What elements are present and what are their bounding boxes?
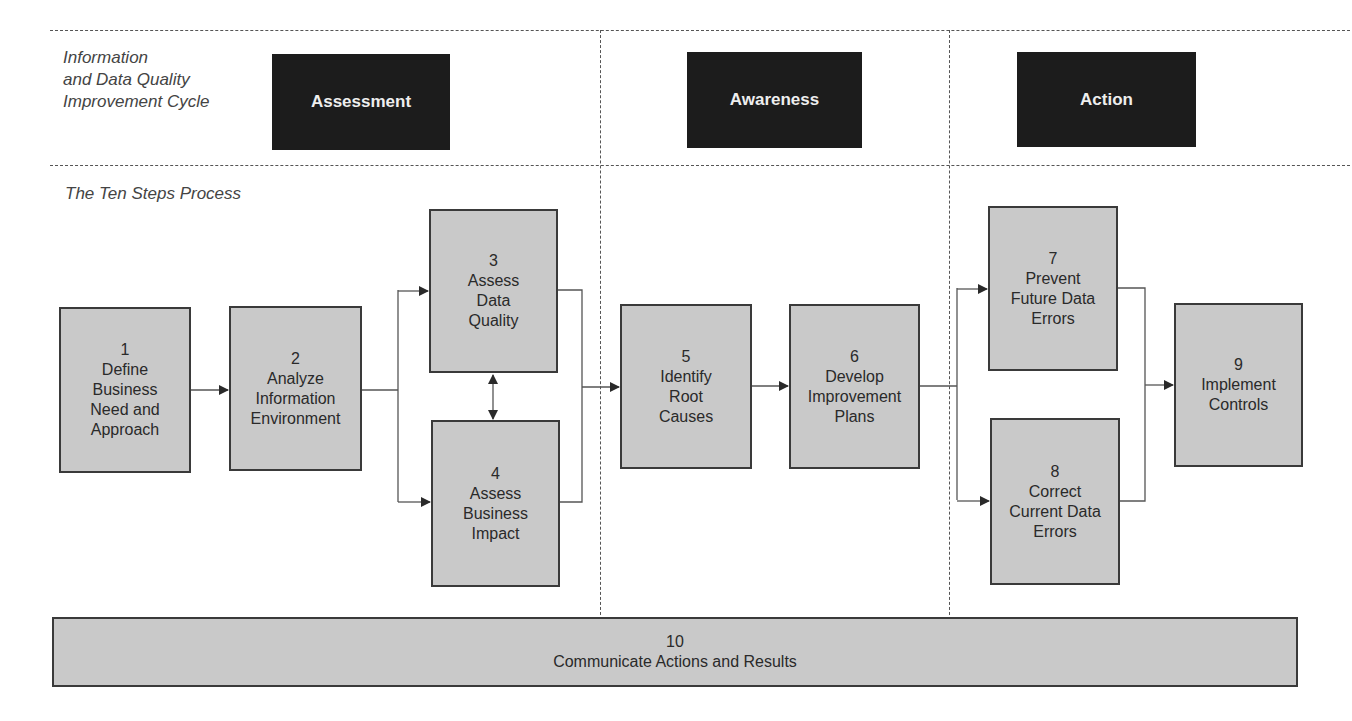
step-number: 7: [1049, 249, 1058, 269]
step-title: Correct Current Data Errors: [1009, 482, 1101, 542]
step-2: 2 Analyze Information Environment: [229, 306, 362, 471]
step-title: Define Business Need and Approach: [90, 360, 159, 440]
step-9: 9 Implement Controls: [1174, 303, 1303, 467]
step-number: 1: [121, 340, 130, 360]
step-title: Assess Business Impact: [463, 484, 528, 544]
step-10: 10 Communicate Actions and Results: [52, 617, 1298, 687]
step-title: Identify Root Causes: [659, 367, 713, 427]
step-title: Communicate Actions and Results: [553, 652, 797, 672]
step-title: Assess Data Quality: [468, 271, 520, 331]
step-number: 10: [666, 632, 684, 652]
step-4: 4 Assess Business Impact: [431, 420, 560, 587]
step-title: Analyze Information Environment: [251, 369, 341, 429]
step-number: 3: [489, 251, 498, 271]
step-title: Implement Controls: [1201, 375, 1276, 415]
step-number: 6: [850, 347, 859, 367]
step-number: 8: [1051, 462, 1060, 482]
step-number: 4: [491, 464, 500, 484]
step-5: 5 Identify Root Causes: [620, 304, 752, 469]
step-number: 2: [291, 349, 300, 369]
step-number: 9: [1234, 355, 1243, 375]
step-7: 7 Prevent Future Data Errors: [988, 206, 1118, 371]
step-title: Develop Improvement Plans: [808, 367, 901, 427]
step-number: 5: [682, 347, 691, 367]
step-3: 3 Assess Data Quality: [429, 209, 558, 373]
step-1: 1 Define Business Need and Approach: [59, 307, 191, 473]
step-8: 8 Correct Current Data Errors: [990, 418, 1120, 585]
step-title: Prevent Future Data Errors: [1011, 269, 1095, 329]
step-6: 6 Develop Improvement Plans: [789, 304, 920, 469]
